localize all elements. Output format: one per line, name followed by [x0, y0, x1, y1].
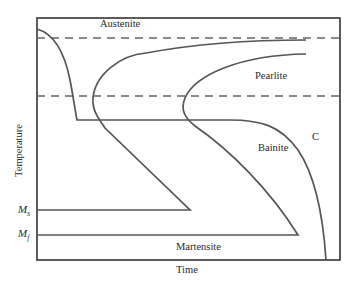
region-label-austenite: Austenite: [100, 18, 140, 29]
region-label-martensite: Martensite: [176, 241, 221, 252]
x-axis-label: Time: [176, 264, 198, 275]
pearlite-upper-line: [146, 40, 306, 53]
ms-label: Ms: [18, 203, 30, 218]
ms-sub: s: [27, 209, 30, 218]
curve-label-c: C: [312, 131, 319, 142]
region-label-pearlite: Pearlite: [255, 70, 287, 81]
region-label-bainite: Bainite: [258, 142, 288, 153]
mf-sub: f: [27, 233, 29, 242]
mf-label: Mf: [18, 227, 29, 242]
mf-main: M: [18, 227, 27, 239]
ms-main: M: [18, 203, 27, 215]
pearlite-start-curve: [37, 53, 190, 210]
y-axis-label: Temperature: [13, 121, 24, 181]
